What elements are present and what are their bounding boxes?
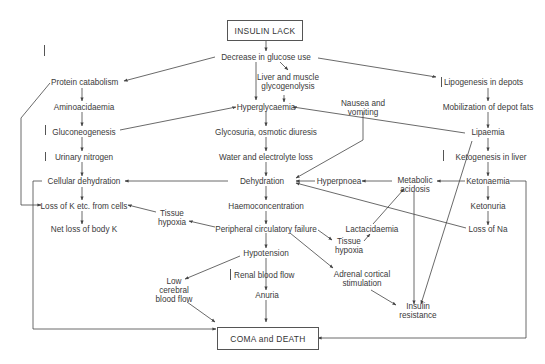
insulin-lack-diagram: INSULIN LACK COMA and DEATH Protein cata… [0,0,545,364]
metabolic-line-2: acidosis [397,185,432,194]
nausea-line-2: vomiting [341,108,385,117]
adrenal-line-2: stimulation [334,279,390,288]
metabolic-line-1: Metabolic [397,176,432,185]
haemoconcentration-node: Haemoconcentration [228,202,304,211]
anuria-node: Anuria [255,291,279,300]
low-cerebral-line-1: Low [156,277,193,286]
gluconeogenesis-node: Gluconeogenesis [52,128,115,137]
loss-of-k-node: Loss of K etc. from cells [41,202,128,211]
urinary-nitrogen-node: Urinary nitrogen [55,153,113,162]
tissue-hypoxia-right-line-2: hypoxia [335,246,363,255]
insulin-resistance-line-1: Insulin [399,302,436,311]
tissue-hypoxia-left-line-2: hypoxia [158,218,186,227]
insulin-lack-box: INSULIN LACK [227,20,303,41]
ketogenesis-node: Ketogenesis in liver [456,153,527,162]
tissue-hypoxia-right-line-1: Tissue [335,237,363,246]
tissue-hypoxia-left-node: Tissue hypoxia [158,209,186,227]
increase-indicator-ketogenesis [443,150,444,161]
net-loss-body-k-node: Net loss of body K [51,225,117,234]
renal-blood-flow-node: Renal blood flow [234,271,295,280]
liver-muscle-glycogenolysis-node: Liver and muscle glycogenolysis [257,73,319,91]
coma-and-death-box: COMA and DEATH [217,327,319,350]
decrease-indicator-lipogenesis [441,77,442,87]
insulin-resistance-node: Insulin resistance [399,302,436,320]
lactacidaemia-node: Lactacidaemia [346,225,399,234]
hyperpnoea-node: Hyperpnoea [317,177,362,186]
low-cerebral-line-2: cerebral [156,286,193,295]
nausea-line-1: Nausea and [341,99,385,108]
aminoacidaemia-node: Aminoacidaemia [54,103,115,112]
adrenal-line-1: Adrenal cortical [334,270,390,279]
lipaemia-node: Lipaemia [471,128,504,137]
decrease-glucose-use-node: Decrease in glucose use [221,53,311,62]
adrenal-cortical-stimulation-node: Adrenal cortical stimulation [334,270,390,288]
increase-indicator-protein [44,45,45,56]
liver-glyco-line-2: glycogenolysis [257,82,319,91]
increase-indicator-gluconeogenesis [45,125,46,135]
loss-of-na-node: Loss of Na [468,225,507,234]
hyperglycaemia-node: Hyperglycaemia [237,103,296,112]
glycosuria-node: Glycosuria, osmotic diuresis [215,128,317,137]
nausea-vomiting-node: Nausea and vomiting [341,99,385,117]
peripheral-circulatory-failure-node: Peripheral circulatory failure [215,225,316,234]
water-electrolyte-loss-node: Water and electrolyte loss [219,153,313,162]
hypotension-node: Hypotension [243,249,289,258]
lipogenesis-node: Lipogenesis in depots [444,78,523,87]
ketonuria-node: Ketonuria [470,202,505,211]
tissue-hypoxia-left-line-1: Tissue [158,209,186,218]
low-cerebral-blood-flow-node: Low cerebral blood flow [156,277,193,304]
tissue-hypoxia-right-node: Tissue hypoxia [335,237,363,255]
liver-glyco-line-1: Liver and muscle [257,73,319,82]
dehydration-node: Dehydration [240,177,284,186]
protein-catabolism-node: Protein catabolism [51,78,118,87]
ketonaemia-node: Ketonaemia [466,177,510,186]
low-cerebral-line-3: blood flow [156,295,193,304]
increase-indicator-urinary-nitrogen [45,152,46,161]
insulin-resistance-line-2: resistance [399,311,436,320]
cellular-dehydration-node: Cellular dehydration [48,177,121,186]
mobilization-depot-fats-node: Mobilization of depot fats [443,103,534,112]
metabolic-acidosis-node: Metabolic acidosis [397,176,432,194]
decrease-indicator-renal [230,269,231,280]
